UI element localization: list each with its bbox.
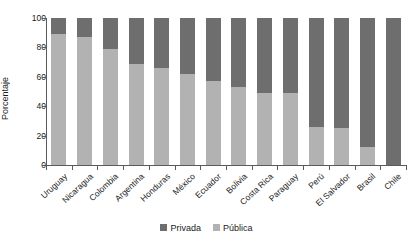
legend-label: Privada	[170, 223, 201, 233]
bar-segment-privada[interactable]	[283, 18, 298, 93]
chart-legend: PrivadaPública	[0, 222, 413, 233]
bar-segment-publica[interactable]	[77, 37, 92, 165]
bar-segment-privada[interactable]	[51, 18, 66, 34]
bar-stack[interactable]	[154, 18, 169, 165]
bar-segment-privada[interactable]	[334, 18, 349, 128]
bar-stack[interactable]	[180, 18, 195, 165]
bar-segment-privada[interactable]	[129, 18, 144, 64]
bar-segment-privada[interactable]	[180, 18, 195, 74]
bar-stack[interactable]	[51, 18, 66, 165]
bar-stack[interactable]	[129, 18, 144, 165]
chart-container: Porcentaje 100806040200 UruguayNicaragua…	[0, 0, 413, 240]
y-axis-title: Porcentaje	[0, 48, 14, 148]
bar-segment-privada[interactable]	[360, 18, 375, 147]
bar-segment-privada[interactable]	[386, 18, 401, 165]
bar-segment-privada[interactable]	[103, 18, 118, 49]
bar-stack[interactable]	[386, 18, 401, 165]
bar-segment-privada[interactable]	[206, 18, 221, 81]
legend-swatch-icon	[160, 224, 167, 231]
bar-segment-publica[interactable]	[51, 34, 66, 165]
bar-stack[interactable]	[206, 18, 221, 165]
bar-segment-privada[interactable]	[231, 18, 246, 87]
bar-stack[interactable]	[283, 18, 298, 165]
bar-segment-privada[interactable]	[257, 18, 272, 93]
bar-segment-privada[interactable]	[154, 18, 169, 68]
bar-stack[interactable]	[360, 18, 375, 165]
bar-segment-publica[interactable]	[206, 81, 221, 165]
bar-stack[interactable]	[231, 18, 246, 165]
bar-stack[interactable]	[257, 18, 272, 165]
x-axis-tick-mark	[46, 166, 47, 170]
bar-stack[interactable]	[77, 18, 92, 165]
legend-item[interactable]: Pública	[213, 222, 253, 233]
bar-segment-publica[interactable]	[334, 128, 349, 165]
bar-segment-publica[interactable]	[257, 93, 272, 165]
legend-label: Pública	[223, 223, 253, 233]
bar-stack[interactable]	[103, 18, 118, 165]
bar-stack[interactable]	[334, 18, 349, 165]
legend-swatch-icon	[213, 224, 220, 231]
bar-stack[interactable]	[309, 18, 324, 165]
plot-area	[46, 18, 406, 165]
bar-segment-privada[interactable]	[309, 18, 324, 127]
bar-segment-privada[interactable]	[77, 18, 92, 37]
legend-item[interactable]: Privada	[160, 222, 201, 233]
